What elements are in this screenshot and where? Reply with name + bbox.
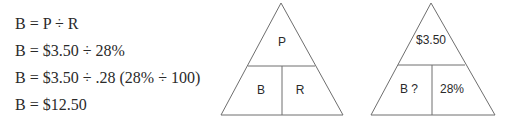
triangle-formula-top-label: P <box>278 35 286 49</box>
triangle-solved-bottom-left-label: B ? <box>400 82 418 96</box>
triangle-solved-top-label: $3.50 <box>416 33 446 47</box>
triangle-formula-bottom-left-label: B <box>257 83 265 97</box>
formula-triangles: P B R $3.50 B ? 28% <box>0 0 509 123</box>
triangle-formula-bottom-right-label: R <box>296 83 305 97</box>
triangle-formula: P B R <box>221 3 343 115</box>
triangle-solved: $3.50 B ? 28% <box>371 3 495 115</box>
triangle-solved-bottom-right-label: 28% <box>440 82 464 96</box>
triangle-solved-outline <box>371 3 495 115</box>
